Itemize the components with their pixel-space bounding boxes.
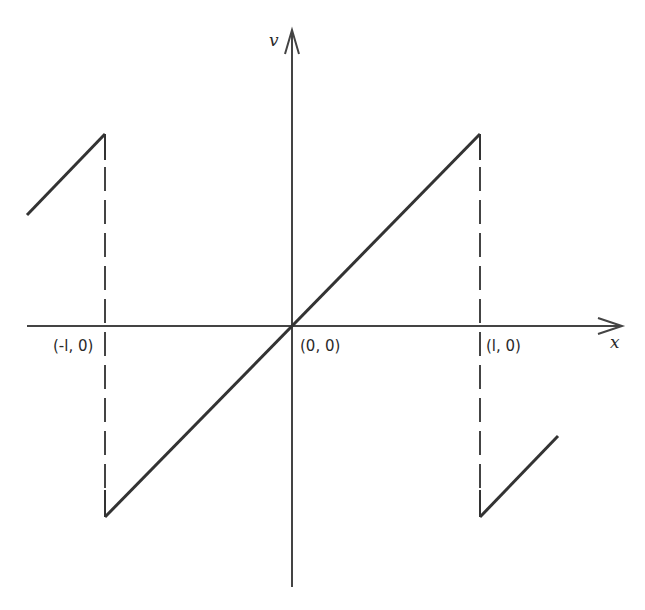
- left-point-label: (-l, 0): [53, 337, 93, 355]
- right-point-label: (l, 0): [486, 337, 521, 355]
- origin-label: (0, 0): [300, 337, 340, 355]
- left-segment: [27, 134, 105, 215]
- diagram-canvas: [0, 0, 645, 610]
- y-axis-label: v: [269, 30, 279, 50]
- right-segment: [480, 436, 558, 517]
- sawtooth-diagram: v x (-l, 0) (0, 0) (l, 0): [0, 0, 645, 610]
- x-axis-label: x: [610, 332, 620, 352]
